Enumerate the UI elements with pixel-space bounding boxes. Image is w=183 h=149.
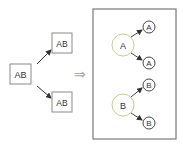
parent-b-label: B <box>120 101 126 111</box>
diagram-canvas: AB AB AB ⇒ A A A B B B <box>0 0 183 149</box>
child-b1-label: B <box>146 81 151 90</box>
target-box-bottom: AB <box>52 92 72 112</box>
source-box-label: AB <box>14 70 26 80</box>
child-a1-label: A <box>146 23 152 32</box>
target-box-bottom-label: AB <box>56 98 68 108</box>
arrow-down <box>37 86 51 98</box>
arrow-up <box>37 50 51 64</box>
source-box: AB <box>10 64 31 84</box>
target-box-top-label: AB <box>56 39 68 49</box>
child-a2-label: A <box>146 59 152 68</box>
target-box-top: AB <box>52 33 72 53</box>
implies-arrow-icon: ⇒ <box>74 66 86 82</box>
parent-a-label: A <box>120 41 126 51</box>
child-b2-label: B <box>146 119 151 128</box>
result-frame <box>93 9 176 139</box>
